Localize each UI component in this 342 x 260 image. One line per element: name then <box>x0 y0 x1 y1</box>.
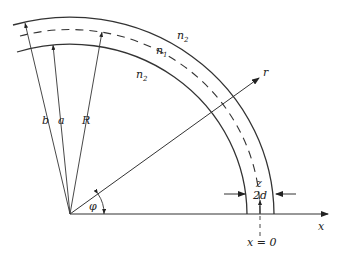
label-x-equals-0: x = 0 <box>247 236 276 249</box>
label-n2-outer: n2 <box>177 29 189 44</box>
label-n2-inner: n2 <box>136 68 148 83</box>
inner-boundary-arc <box>17 44 247 214</box>
label-phi: φ <box>89 200 97 213</box>
outer-boundary-arc <box>13 17 274 214</box>
label-2d: 2d <box>252 189 267 202</box>
core-center-dashed-arc <box>20 30 260 214</box>
radius-a-line <box>53 45 70 214</box>
label-R: R <box>81 114 90 127</box>
label-b: b <box>42 114 49 127</box>
label-x: x <box>318 220 325 233</box>
label-r: r <box>263 66 269 79</box>
label-a: a <box>58 114 65 127</box>
curved-waveguide-diagram: n2 n1 n2 b a R r φ z 2d x x = 0 <box>0 0 342 260</box>
label-n1-core: n1 <box>156 44 168 59</box>
phi-angle-arc <box>98 194 104 214</box>
